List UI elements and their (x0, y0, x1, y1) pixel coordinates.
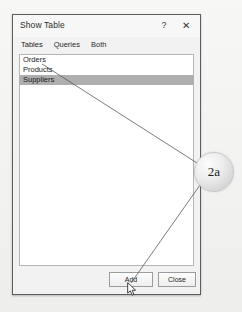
table-listbox[interactable]: Orders Products Suppliers (19, 54, 194, 266)
step-callout-2a: 2a (194, 152, 234, 192)
screenshot-canvas: Show Table ? ✕ Tables Queries Both Order… (0, 0, 242, 312)
mouse-pointer-icon (127, 282, 138, 297)
help-icon[interactable]: ? (154, 17, 174, 34)
tab-list: Tables Queries Both (19, 39, 108, 50)
dialog-footer: Add Close (13, 266, 200, 294)
close-icon[interactable]: ✕ (176, 17, 196, 34)
cursor-glyph (127, 282, 138, 297)
titlebar-buttons: ? ✕ (154, 17, 196, 34)
list-item-suppliers[interactable]: Suppliers (20, 75, 193, 85)
list-item-orders[interactable]: Orders (20, 55, 193, 65)
close-button[interactable]: Close (158, 272, 196, 287)
dialog-title: Show Table (20, 20, 65, 30)
tab-both[interactable]: Both (89, 39, 108, 50)
dialog-titlebar: Show Table ? ✕ (13, 15, 200, 37)
show-table-dialog: Show Table ? ✕ Tables Queries Both Order… (12, 14, 201, 295)
tabstrip: Tables Queries Both (13, 37, 200, 53)
tab-tables[interactable]: Tables (19, 39, 45, 50)
callout-label: 2a (208, 164, 220, 180)
list-item-products[interactable]: Products (20, 65, 193, 75)
tab-queries[interactable]: Queries (52, 39, 82, 50)
